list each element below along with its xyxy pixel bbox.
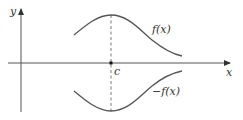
point-c-marker bbox=[110, 62, 113, 65]
curve-neg-f-label: −f(x) bbox=[152, 85, 180, 98]
y-axis-label: y bbox=[9, 5, 17, 18]
curve-f-label: f(x) bbox=[151, 23, 171, 36]
point-c-label: c bbox=[114, 65, 120, 78]
diagram-canvas: y x c f(x) −f(x) bbox=[0, 0, 243, 120]
x-axis-label: x bbox=[226, 66, 233, 79]
